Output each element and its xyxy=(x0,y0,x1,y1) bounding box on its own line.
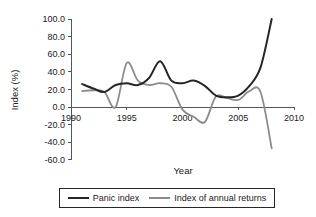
y-axis-tick-label: 60.0 xyxy=(47,49,65,59)
x-axis-tick-label: 2010 xyxy=(284,113,304,123)
legend-label-panic-index: Panic index xyxy=(93,193,140,203)
y-axis-tick-label: -60.0 xyxy=(44,155,65,165)
series-line-panic-index xyxy=(82,19,272,97)
x-axis-tick-label: 2005 xyxy=(228,113,248,123)
y-axis-title: Index (%) xyxy=(9,70,20,111)
legend-swatch-panic-index xyxy=(68,197,89,199)
line-chart: 100.080.060.040.020.00.0-20.0-40.0-60.0 … xyxy=(0,0,316,217)
legend-swatch-index-of-annual-returns xyxy=(149,197,170,199)
chart-legend: Panic index Index of annual returns xyxy=(59,188,275,208)
chart-container: 100.080.060.040.020.00.0-20.0-40.0-60.0 … xyxy=(0,0,316,217)
legend-item-panic-index: Panic index xyxy=(68,193,140,203)
x-axis-title: Year xyxy=(173,165,192,176)
data-series-group xyxy=(82,19,272,148)
y-axis-tick-label: -40.0 xyxy=(44,137,65,147)
y-axis-tick-label: 100.0 xyxy=(42,14,65,24)
x-axis-tick-label: 1990 xyxy=(61,113,81,123)
y-axis-tick-label: 80.0 xyxy=(47,32,65,42)
y-axis-tick-labels: 100.080.060.040.020.00.0-20.0-40.0-60.0 xyxy=(42,14,65,165)
legend-label-index-of-annual-returns: Index of annual returns xyxy=(174,193,266,203)
y-axis-tick-label: 40.0 xyxy=(47,67,65,77)
series-line-index-of-annual-returns xyxy=(82,62,272,148)
y-axis-group: 100.080.060.040.020.00.0-20.0-40.0-60.0 xyxy=(42,14,71,165)
legend-item-index-of-annual-returns: Index of annual returns xyxy=(149,193,266,203)
x-axis-tick-label: 1995 xyxy=(117,113,137,123)
y-axis-tick-label: 20.0 xyxy=(47,85,65,95)
y-axis-tick-label: 0.0 xyxy=(52,102,65,112)
